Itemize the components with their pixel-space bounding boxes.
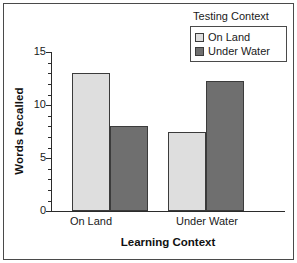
y-tick-label-15-wrap: 15: [14, 46, 46, 57]
bar-underwater-underwater: [206, 81, 244, 211]
legend-swatch-icon-on-land: [195, 33, 204, 42]
bar-onland-underwater: [110, 126, 148, 211]
legend-item-under-water: Under Water: [195, 44, 282, 58]
y-tick-minor-14: [48, 63, 51, 64]
y-tick-minor-12: [48, 84, 51, 85]
y-tick-minor-2: [48, 190, 51, 191]
y-axis-title: Words Recalled: [13, 71, 25, 191]
x-axis-title: Learning Context: [51, 236, 285, 248]
y-tick-minor-9: [48, 116, 51, 117]
legend-label-under-water: Under Water: [208, 45, 270, 57]
y-tick-minor-11: [48, 95, 51, 96]
legend-swatch-icon-under-water: [195, 47, 204, 56]
y-axis-line: [51, 52, 52, 212]
x-tick-label-on-land: On Land: [65, 215, 117, 228]
y-tick-minor-7: [48, 137, 51, 138]
y-tick-major-0: [46, 211, 51, 212]
plot-area: 15 10 5 0 Words Recalled On Land Under W…: [0, 0, 297, 263]
y-tick-major-5: [46, 158, 51, 159]
bar-onland-onland: [72, 73, 110, 211]
legend-title: Testing Context: [172, 10, 290, 22]
y-tick-minor-4: [48, 169, 51, 170]
y-tick-minor-3: [48, 179, 51, 180]
y-tick-minor-13: [48, 73, 51, 74]
y-tick-label-0: 0: [20, 205, 46, 216]
bar-underwater-onland: [168, 132, 206, 212]
y-tick-minor-1: [48, 201, 51, 202]
y-tick-minor-6: [48, 148, 51, 149]
x-axis-line: [51, 211, 285, 212]
legend-label-on-land: On Land: [208, 31, 250, 43]
legend-item-on-land: On Land: [195, 30, 282, 44]
chart-figure: 15 10 5 0 Words Recalled On Land Under W…: [0, 0, 297, 263]
y-tick-minor-8: [48, 126, 51, 127]
y-tick-label-0-wrap: 0: [14, 205, 46, 216]
y-tick-label-15: 15: [20, 46, 46, 57]
y-tick-major-15: [46, 52, 51, 53]
legend-box: On Land Under Water: [190, 26, 287, 62]
x-tick-label-under-water: Under Water: [162, 215, 252, 228]
y-tick-major-10: [46, 105, 51, 106]
